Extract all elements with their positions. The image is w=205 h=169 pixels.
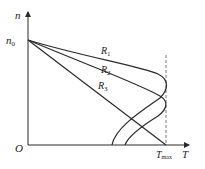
tmax-label: Tmax <box>156 149 172 160</box>
r1-label: R1 <box>100 45 111 58</box>
mechanical-characteristic-diagram: n n0 R1 R2 R3 O Tmax T <box>0 0 205 169</box>
n0-label: n0 <box>6 34 16 48</box>
r2-label: R2 <box>100 64 111 77</box>
diagram-svg: n n0 R1 R2 R3 O Tmax T <box>0 0 205 169</box>
y-axis-label: n <box>15 9 21 21</box>
curve-r3 <box>28 40 166 145</box>
r3-label: R3 <box>97 80 108 93</box>
x-axis-label: T <box>182 148 189 160</box>
origin-label: O <box>15 142 23 154</box>
